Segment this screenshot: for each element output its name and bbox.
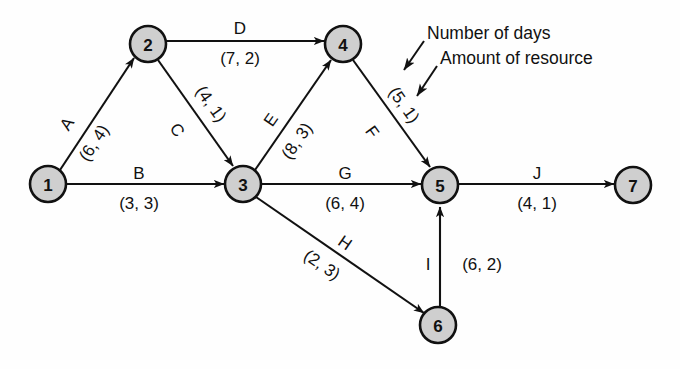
edge-J-weight: (4, 1): [517, 194, 557, 213]
edge-B: B (3, 3): [66, 164, 224, 213]
node-5-label: 5: [435, 177, 444, 196]
node-6[interactable]: 6: [420, 307, 456, 343]
edge-H-weight: (2, 3): [300, 246, 343, 284]
node-2[interactable]: 2: [130, 26, 166, 62]
node-2-label: 2: [143, 36, 152, 55]
node-7-label: 7: [628, 177, 637, 196]
edge-I-name: I: [426, 255, 431, 274]
annotation-amount-of-resource: Amount of resource: [417, 48, 593, 96]
edge-D: D (7, 2): [166, 19, 324, 68]
node-3-label: 3: [238, 176, 247, 195]
edge-A-name: A: [56, 113, 78, 133]
edge-C: C (4, 1): [158, 60, 233, 166]
annotation-days-arrow: [404, 41, 424, 70]
edge-H-line: [256, 197, 424, 313]
node-1[interactable]: 1: [30, 166, 66, 202]
edge-H-name: H: [335, 232, 356, 255]
annotation-resource-label: Amount of resource: [440, 48, 593, 68]
node-5[interactable]: 5: [422, 167, 458, 203]
node-3[interactable]: 3: [225, 166, 261, 202]
edge-D-name: D: [234, 19, 246, 38]
node-4[interactable]: 4: [325, 26, 361, 62]
edge-J: J (4, 1): [458, 164, 614, 213]
edge-B-weight: (3, 3): [119, 194, 159, 213]
edge-G: G (6, 4): [261, 164, 421, 213]
node-1-label: 1: [43, 176, 52, 195]
edge-B-name: B: [133, 164, 144, 183]
edge-E: E (8, 3): [255, 60, 331, 170]
annotation-days-label: Number of days: [427, 23, 551, 43]
edge-D-weight: (7, 2): [220, 49, 260, 68]
edge-F-weight: (5, 1): [385, 83, 424, 126]
edge-E-name: E: [260, 110, 282, 130]
edge-H: H (2, 3): [256, 197, 424, 313]
network-diagram: A (6, 4) B (3, 3) C (4, 1) D (7, 2) E (8…: [0, 0, 680, 369]
edge-G-name: G: [338, 164, 351, 183]
node-7[interactable]: 7: [615, 167, 651, 203]
edge-C-weight: (4, 1): [192, 82, 231, 125]
diagram-canvas: A (6, 4) B (3, 3) C (4, 1) D (7, 2) E (8…: [0, 0, 680, 369]
edge-E-weight: (8, 3): [278, 119, 316, 162]
edge-I: I (6, 2): [426, 207, 502, 307]
edge-I-weight: (6, 2): [462, 255, 502, 274]
edge-F: F (5, 1): [353, 60, 430, 167]
node-6-label: 6: [433, 317, 442, 336]
node-4-label: 4: [338, 36, 348, 55]
edge-F-name: F: [361, 122, 383, 141]
edge-J-name: J: [533, 164, 542, 183]
edge-A: A (6, 4): [56, 58, 134, 170]
edge-C-name: C: [166, 119, 189, 140]
annotation-resource-arrow: [417, 66, 437, 96]
edge-G-weight: (6, 4): [325, 194, 365, 213]
edge-A-weight: (6, 4): [75, 121, 113, 165]
